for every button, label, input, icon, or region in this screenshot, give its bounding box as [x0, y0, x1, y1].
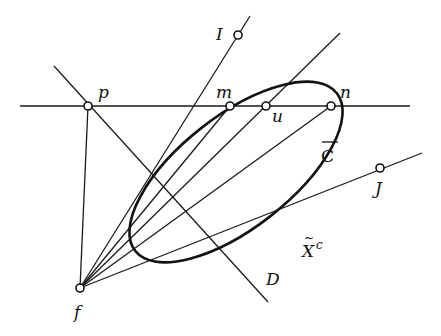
point-n [327, 102, 335, 110]
label-C-bar: C [321, 142, 338, 166]
label-p: p [98, 82, 109, 102]
line-D [54, 66, 268, 302]
point-f [76, 284, 84, 292]
line-p-f [80, 106, 88, 288]
label-u: u [272, 106, 283, 126]
point-I [234, 31, 242, 39]
label-I: I [215, 24, 223, 44]
point-m [226, 102, 234, 110]
line-f-u [80, 33, 340, 288]
label-f: f [72, 302, 83, 322]
label-X-tilde-c: X ~ c [300, 231, 323, 261]
label-m: m [216, 82, 232, 102]
svg-text:c: c [316, 238, 323, 252]
point-J [376, 164, 384, 172]
line-f-I [80, 16, 250, 288]
svg-text:~: ~ [304, 231, 314, 245]
label-n: n [340, 82, 351, 102]
svg-text:C: C [321, 146, 334, 166]
geometry-diagram: I p m u n C J X ~ c D f [0, 0, 441, 336]
label-J: J [372, 178, 383, 198]
point-u [262, 102, 270, 110]
point-p [84, 102, 92, 110]
ellipse-C [101, 49, 372, 295]
label-D: D [265, 269, 280, 289]
